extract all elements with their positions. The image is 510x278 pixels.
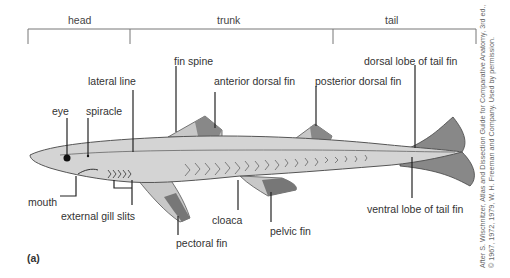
label-spiracle: spiracle xyxy=(86,106,122,117)
shark-body xyxy=(30,136,462,183)
pelvic-fin-shade xyxy=(262,178,296,196)
label-dorsal-lobe: dorsal lobe of tail fin xyxy=(364,56,457,67)
credit-text: After S. Wischnitzer, Atlas and Dissecti… xyxy=(478,4,496,268)
label-pectoral-fin: pectoral fin xyxy=(176,238,227,249)
region-head: head xyxy=(68,14,91,26)
label-posterior-dorsal-fin: posterior dorsal fin xyxy=(315,76,401,87)
credit-line-1: After S. Wischnitzer, Atlas and Dissecti… xyxy=(478,4,487,268)
label-anterior-dorsal-fin: anterior dorsal fin xyxy=(214,76,295,87)
label-mouth: mouth xyxy=(28,197,57,208)
eye-icon xyxy=(64,155,71,162)
label-external-gill-slits: external gill slits xyxy=(61,211,135,222)
label-eye: eye xyxy=(52,106,69,117)
label-ventral-lobe: ventral lobe of tail fin xyxy=(367,204,463,215)
region-brackets xyxy=(28,29,476,44)
label-pelvic-fin: pelvic fin xyxy=(270,226,311,237)
label-lateral-line: lateral line xyxy=(88,76,136,87)
label-fin-spine: fin spine xyxy=(174,56,213,67)
label-cloaca: cloaca xyxy=(212,215,242,226)
shark-diagram xyxy=(0,0,510,278)
region-tail: tail xyxy=(385,14,398,26)
region-trunk: trunk xyxy=(217,14,240,26)
spiracle-icon xyxy=(87,155,89,157)
credit-line-2: © 1967, 1972, 1979, W. H. Freeman and Co… xyxy=(487,4,496,268)
panel-label: (a) xyxy=(27,252,40,264)
